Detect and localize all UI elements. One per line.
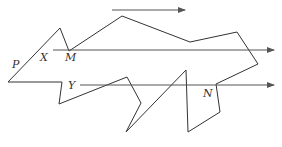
- diagram-canvas: P X M Y N: [0, 0, 282, 147]
- label-p: P: [11, 58, 20, 71]
- label-m: M: [64, 51, 77, 64]
- label-y: Y: [68, 79, 77, 92]
- label-n: N: [202, 87, 213, 100]
- label-x: X: [39, 51, 49, 64]
- polygon-outline: [8, 16, 258, 132]
